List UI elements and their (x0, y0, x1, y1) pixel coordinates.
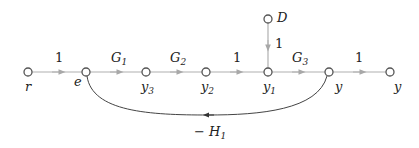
node-y-output: y (386, 68, 402, 94)
svg-text:e: e (74, 74, 82, 89)
gain-G2: G2 (170, 50, 186, 67)
branch-y2-y1: 1 (210, 50, 264, 72)
svg-text:D: D (276, 10, 288, 25)
gain-y-yout: 1 (355, 50, 363, 65)
gain-minus-H1: − H1 (194, 124, 226, 141)
branch-r-e: 1 (32, 50, 82, 72)
gain-y2-y1: 1 (233, 50, 241, 65)
gain-G1: G1 (111, 50, 127, 67)
svg-text:y: y (393, 79, 402, 94)
node-r: r (24, 68, 32, 94)
gain-r-e: 1 (55, 50, 63, 65)
signal-flow-graph: 1 G1 G2 1 G3 1 1 − H1 r (0, 0, 419, 148)
branch-e-y3: G1 (90, 50, 142, 72)
branch-D-y1: 1 (268, 23, 283, 68)
svg-text:y1: y1 (262, 79, 276, 96)
svg-text:r: r (25, 79, 32, 94)
branch-y-yout: 1 (333, 50, 386, 72)
gain-D-y1: 1 (275, 36, 283, 51)
branch-y3-y2: G2 (150, 50, 202, 72)
svg-text:y: y (334, 79, 343, 94)
node-D: D (264, 10, 288, 25)
branch-y1-y: G3 (272, 50, 325, 72)
svg-text:y2: y2 (200, 79, 214, 96)
gain-G3: G3 (292, 50, 308, 67)
svg-text:y3: y3 (140, 79, 154, 96)
